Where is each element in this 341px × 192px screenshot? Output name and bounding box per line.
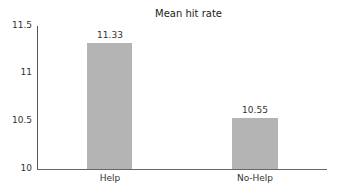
y-tick-label: 11 — [2, 67, 32, 77]
x-axis-line — [37, 169, 327, 170]
bar-help — [87, 43, 132, 169]
bar-value-label-help: 11.33 — [80, 30, 140, 40]
chart-title: Mean hit rate — [0, 8, 341, 19]
y-tick-label: 10.5 — [2, 115, 32, 125]
y-axis-line — [37, 26, 38, 169]
x-category-label-help: Help — [75, 173, 145, 183]
bar-no-help — [232, 118, 278, 169]
y-tick-label: 10 — [2, 163, 32, 173]
x-category-label-no-help: No-Help — [220, 173, 290, 183]
y-tick-label: 11.5 — [2, 20, 32, 30]
bar-value-label-no-help: 10.55 — [225, 105, 285, 115]
